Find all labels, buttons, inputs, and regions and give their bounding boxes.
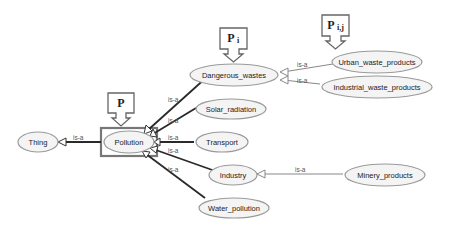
edge-label-transport: is-a [168,134,179,141]
node-label: Dangerous_wastes [202,71,266,80]
edges [64,64,343,198]
node-water-pollution[interactable]: Water_pollution [199,198,269,218]
node-label: Solar_radiation [206,105,256,114]
edge-label-urban: is-a [297,61,308,68]
edge-label-industry: is-a [168,147,179,154]
edge-water-pollution [146,154,205,198]
arrowhead-minery [257,170,265,178]
node-label: Water_pollution [208,204,260,213]
edge-label-dangerous: is-a [168,96,179,103]
node-label: Industrial_waste_products [333,83,420,92]
marker-p-label: P [117,96,124,110]
edge-label-water: is-a [168,166,179,173]
node-thing[interactable]: Thing [18,132,58,152]
node-label: Industry [220,171,247,180]
node-industry[interactable]: Industry [209,165,257,185]
node-label: Minery_products [357,171,413,180]
node-industrial-waste-products[interactable]: Industrial_waste_products [322,76,432,98]
node-label: Urban_waste_products [338,58,415,67]
marker-pi-label: P [227,31,234,45]
marker-p: P [108,93,134,126]
edge-label-industrial: is-a [297,77,308,84]
ontology-diagram: is-a is-a is-a is-a is-a is-a is-a is-a … [0,0,454,233]
node-dangerous-wastes[interactable]: Dangerous_wastes [190,64,278,86]
node-solar-radiation[interactable]: Solar_radiation [196,99,266,119]
edge-label-thing: is-a [73,134,84,141]
edge-label-solar: is-a [168,117,179,124]
node-transport[interactable]: Transport [196,132,248,152]
node-label: Pollution [115,138,144,147]
marker-pij-subscript: i,j [337,23,344,32]
arrowhead-industrial [280,76,288,84]
node-label: Thing [29,138,48,147]
arrowhead-thing [58,138,66,146]
edge-industry-pollution [153,149,218,172]
arrowhead-urban [280,68,288,76]
marker-pij: P i,j [322,15,349,49]
marker-pi: P i [220,28,247,62]
node-pollution[interactable]: Pollution [104,131,154,153]
node-urban-waste-products[interactable]: Urban_waste_products [332,51,422,73]
edge-label-minery: is-a [295,166,306,173]
edge-urban-dangerous [283,64,333,72]
node-minery-products[interactable]: Minery_products [345,164,425,186]
marker-pij-label: P [327,18,334,32]
node-label: Transport [206,138,239,147]
